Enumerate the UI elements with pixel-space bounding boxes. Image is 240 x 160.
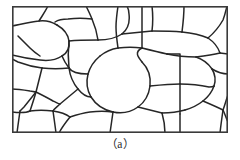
panel-background <box>12 6 228 133</box>
grain-structure-panel <box>12 6 228 133</box>
grain-boundary <box>30 110 53 111</box>
grain-boundary <box>152 6 153 31</box>
grain-boundary <box>68 41 69 68</box>
grain-boundary <box>42 68 69 69</box>
grain-boundary <box>118 47 142 48</box>
figure-caption: （a） <box>0 136 240 152</box>
figure-root: （a） <box>0 0 240 160</box>
grain-structure-svg <box>12 6 228 133</box>
